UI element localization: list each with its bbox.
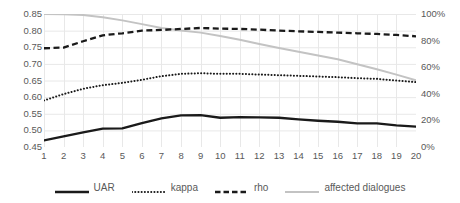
x-axis-tick-label: 6 <box>134 151 150 161</box>
x-axis-tick-label: 16 <box>330 151 346 161</box>
solid-line-swatch <box>55 183 89 193</box>
x-axis-tick-label: 10 <box>212 151 228 161</box>
x-axis-tick-label: 13 <box>271 151 287 161</box>
left-axis-tick-label: 0.85 <box>8 9 42 19</box>
right-axis-tick-label: 60% <box>421 62 457 72</box>
chart-legend: UARkapparhoaffected dialogues <box>0 177 460 199</box>
legend-label: kappa <box>171 183 198 193</box>
x-axis-tick-label: 12 <box>251 151 267 161</box>
x-axis-tick-label: 14 <box>291 151 307 161</box>
x-axis-tick-label: 7 <box>153 151 169 161</box>
legend-label: rho <box>254 183 268 193</box>
series-line <box>44 14 416 80</box>
x-axis-tick-label: 8 <box>173 151 189 161</box>
x-axis-tick-label: 9 <box>193 151 209 161</box>
dotted-line-swatch <box>132 183 166 193</box>
gray-line-swatch <box>285 183 319 193</box>
plot-area <box>44 14 416 147</box>
series-line <box>44 73 416 100</box>
left-axis-tick-label: 0.60 <box>8 92 42 102</box>
x-axis-tick-label: 17 <box>349 151 365 161</box>
x-axis-tick-label: 1 <box>36 151 52 161</box>
x-axis-tick-label: 15 <box>310 151 326 161</box>
x-axis-tick-label: 4 <box>95 151 111 161</box>
left-axis-tick-label: 0.80 <box>8 26 42 36</box>
x-axis-tick-label: 11 <box>232 151 248 161</box>
left-axis-tick-label: 0.75 <box>8 42 42 52</box>
x-axis-tick-label: 20 <box>408 151 424 161</box>
right-axis-tick-label: 40% <box>421 89 457 99</box>
left-axis-tick-label: 0.70 <box>8 59 42 69</box>
legend-label: affected dialogues <box>324 183 405 193</box>
right-axis-tick-label: 100% <box>421 9 457 19</box>
legend-item[interactable]: kappa <box>132 183 198 193</box>
x-axis-tick-label: 18 <box>369 151 385 161</box>
right-axis-tick-label: 80% <box>421 36 457 46</box>
x-axis-tick-label: 5 <box>114 151 130 161</box>
line-chart: 0.850.800.750.700.650.600.550.500.45 100… <box>0 0 460 203</box>
right-axis-tick-label: 0% <box>421 142 457 152</box>
legend-item[interactable]: UAR <box>55 183 115 193</box>
left-axis-tick-label: 0.65 <box>8 76 42 86</box>
series-line <box>44 115 416 140</box>
left-axis-tick-label: 0.50 <box>8 125 42 135</box>
plot-canvas <box>44 14 416 147</box>
legend-label: UAR <box>94 183 115 193</box>
x-axis-tick-label: 19 <box>388 151 404 161</box>
x-axis-tick-label: 2 <box>56 151 72 161</box>
legend-item[interactable]: rho <box>215 183 268 193</box>
legend-item[interactable]: affected dialogues <box>285 183 405 193</box>
dashed-line-swatch <box>215 183 249 193</box>
left-axis-tick-label: 0.55 <box>8 109 42 119</box>
right-axis-tick-label: 20% <box>421 115 457 125</box>
x-axis-tick-label: 3 <box>75 151 91 161</box>
